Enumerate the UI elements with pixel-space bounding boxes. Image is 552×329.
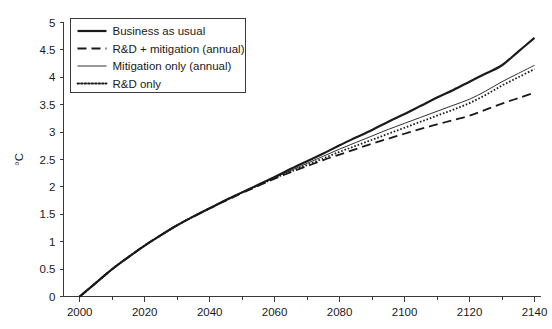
y-tick-label: 4: [49, 71, 56, 83]
y-tick-label: 2.5: [40, 154, 56, 166]
legend-item-label: Mitigation only (annual): [113, 60, 232, 72]
legend-item-label: Business as usual: [113, 25, 206, 37]
series-line: [80, 69, 535, 296]
x-tick-label: 2140: [522, 306, 548, 318]
y-tick-label: 0.5: [40, 263, 56, 275]
x-tick-label: 2080: [327, 306, 353, 318]
x-tick-label: 2060: [262, 306, 288, 318]
y-axis-ticks: [60, 23, 64, 297]
series-line: [80, 93, 535, 297]
y-axis-tick-labels: 00.511.522.533.544.55: [40, 17, 57, 303]
legend-item-label: R&D + mitigation (annual): [113, 43, 245, 55]
chart-legend: Business as usualR&D + mitigation (annua…: [71, 19, 246, 93]
y-tick-label: 4.5: [40, 44, 56, 56]
y-tick-label: 3: [49, 126, 55, 138]
x-tick-label: 2000: [67, 306, 93, 318]
x-tick-label: 2100: [392, 306, 418, 318]
y-tick-label: 1.5: [40, 208, 56, 220]
y-tick-label: 5: [49, 17, 55, 29]
chart-container: 00.511.522.533.544.55 200020202040206020…: [0, 0, 552, 329]
y-axis-title: °C: [13, 153, 25, 166]
x-tick-label: 2120: [457, 306, 483, 318]
x-axis-ticks: [80, 297, 535, 302]
y-tick-label: 0: [49, 291, 55, 303]
y-tick-label: 3.5: [40, 99, 56, 111]
line-chart: 00.511.522.533.544.55 200020202040206020…: [0, 0, 552, 329]
x-tick-label: 2020: [132, 306, 158, 318]
legend-item-label: R&D only: [113, 78, 162, 90]
x-axis-tick-labels: 20002020204020602080210021202140: [67, 306, 547, 318]
x-tick-label: 2040: [197, 306, 223, 318]
y-tick-label: 1: [49, 236, 55, 248]
series-line: [80, 65, 535, 296]
y-tick-label: 2: [49, 181, 55, 193]
